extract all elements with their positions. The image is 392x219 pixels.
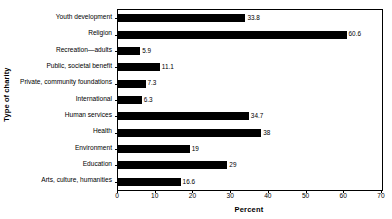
bar-value-label: 29 bbox=[229, 162, 236, 168]
x-axis-tick-label: 50 bbox=[302, 193, 309, 200]
bar bbox=[118, 63, 160, 71]
category-label-column: Youth developmentReligionRecreation—adul… bbox=[12, 9, 115, 189]
bar-row: 11.1 bbox=[118, 63, 382, 71]
bar-value-label: 6.3 bbox=[144, 97, 153, 103]
bar-chart: Type of charity Youth developmentReligio… bbox=[0, 0, 392, 219]
category-label: Private, community foundations bbox=[12, 74, 115, 90]
bar-row: 5.9 bbox=[118, 47, 382, 55]
x-axis-tick-label: 10 bbox=[151, 193, 158, 200]
bar-row: 6.3 bbox=[118, 96, 382, 104]
bar-row: 34.7 bbox=[118, 112, 382, 120]
bar-row: 60.6 bbox=[118, 31, 382, 39]
bar bbox=[118, 80, 146, 88]
x-axis-tick-labels: 010203040506070 bbox=[117, 193, 381, 203]
bar-row: 16.6 bbox=[118, 178, 382, 186]
category-label: Recreation—adults bbox=[12, 42, 115, 58]
bar bbox=[118, 145, 190, 153]
category-label: Religion bbox=[12, 25, 115, 41]
bar-value-label: 11.1 bbox=[162, 64, 174, 70]
x-axis-tick-label: 20 bbox=[189, 193, 196, 200]
x-axis-title: Percent bbox=[117, 205, 381, 214]
bar-value-label: 19 bbox=[192, 146, 199, 152]
category-label: Human services bbox=[12, 107, 115, 123]
bar bbox=[118, 178, 181, 186]
category-label: International bbox=[12, 91, 115, 107]
x-axis-tick-label: 70 bbox=[377, 193, 384, 200]
bar bbox=[118, 129, 261, 137]
x-axis-tick-label: 0 bbox=[115, 193, 119, 200]
bar-row: 7.3 bbox=[118, 80, 382, 88]
bar bbox=[118, 96, 142, 104]
bar bbox=[118, 14, 245, 22]
bar-value-label: 33.8 bbox=[247, 15, 259, 21]
bar-value-label: 38 bbox=[263, 130, 270, 136]
bar bbox=[118, 31, 347, 39]
bar-value-label: 7.3 bbox=[148, 80, 157, 86]
x-axis-tick-label: 40 bbox=[264, 193, 271, 200]
plot-inner: 33.860.65.911.17.36.334.738192916.6 bbox=[118, 10, 382, 190]
bar bbox=[118, 161, 227, 169]
bar bbox=[118, 112, 249, 120]
bar-row: 38 bbox=[118, 129, 382, 137]
category-label: Environment bbox=[12, 140, 115, 156]
bar-row: 19 bbox=[118, 145, 382, 153]
bar-value-label: 60.6 bbox=[349, 31, 361, 37]
bar-row: 33.8 bbox=[118, 14, 382, 22]
y-axis-title: Type of charity bbox=[0, 0, 12, 189]
category-label: Public, societal benefit bbox=[12, 58, 115, 74]
plot-area: 33.860.65.911.17.36.334.738192916.6 bbox=[117, 9, 383, 191]
bar bbox=[118, 47, 140, 55]
category-label: Youth development bbox=[12, 9, 115, 25]
x-axis-tick-label: 30 bbox=[226, 193, 233, 200]
category-label: Arts, culture, humanities bbox=[12, 173, 115, 189]
bar-value-label: 5.9 bbox=[142, 48, 151, 54]
bar-value-label: 16.6 bbox=[183, 179, 195, 185]
y-axis-title-text: Type of charity bbox=[2, 67, 11, 121]
x-axis-tick-label: 60 bbox=[340, 193, 347, 200]
category-label: Education bbox=[12, 156, 115, 172]
bar-row: 29 bbox=[118, 161, 382, 169]
category-label: Health bbox=[12, 124, 115, 140]
bar-value-label: 34.7 bbox=[251, 113, 263, 119]
